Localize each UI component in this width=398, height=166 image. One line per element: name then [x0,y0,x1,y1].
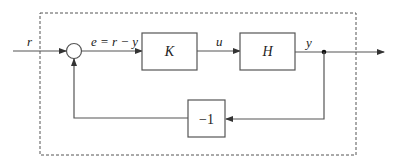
block-k-label: K [164,44,175,59]
control-label: u [216,34,223,49]
error-label: e = r − y [91,34,138,49]
summing-junction [67,44,82,59]
block-h-label: H [261,44,273,59]
output-label: y [304,35,312,50]
input-label: r [27,34,33,49]
block-diagram: r e = r − y K u H y −1 [0,0,398,166]
block-negate-label: −1 [199,112,214,127]
